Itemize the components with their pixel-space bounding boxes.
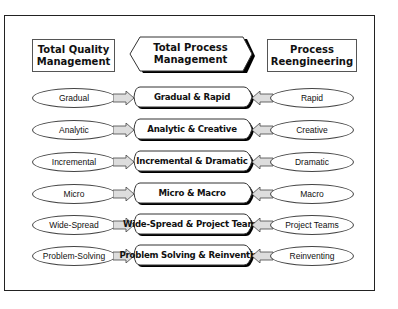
header-center-line2: Management	[154, 54, 228, 65]
tpm-shape: Wide-Spread & Project Teams	[132, 213, 256, 237]
pr-label: Rapid	[301, 93, 323, 103]
pr-oval: Creative	[270, 120, 354, 140]
pr-oval: Rapid	[270, 88, 354, 108]
tqm-label: Wide-Spread	[49, 220, 99, 230]
header-total-quality-management: Total QualityManagement	[32, 39, 115, 72]
tpm-shape: Micro & Macro	[132, 182, 256, 206]
pr-label: Macro	[300, 189, 324, 199]
header-total-process-management: Total ProcessManagement	[129, 36, 256, 74]
tpm-shape: Problem Solving & Reinventing	[132, 244, 256, 268]
header-right-line2: Reengineering	[271, 56, 353, 67]
tpm-shape: Incremental & Dramatic	[132, 150, 256, 174]
row-5: Problem-Solving Problem Solving & Reinve…	[0, 244, 398, 268]
header-right-line1: Process	[290, 44, 334, 55]
tqm-label: Analytic	[59, 125, 89, 135]
tpm-label: Wide-Spread & Project Teams	[132, 213, 252, 234]
tpm-label: Analytic & Creative	[132, 118, 252, 139]
tqm-label: Micro	[64, 189, 85, 199]
header-left-line1: Total Quality	[38, 44, 109, 55]
tqm-oval: Analytic	[32, 120, 116, 140]
tpm-shape: Analytic & Creative	[132, 118, 256, 142]
pr-label: Reinventing	[290, 251, 335, 261]
tqm-oval: Incremental	[32, 152, 116, 172]
header-process-reengineering: ProcessReengineering	[267, 39, 357, 72]
tpm-label: Micro & Macro	[132, 182, 252, 203]
row-0: Gradual Gradual & Rapid Rapid	[0, 86, 398, 110]
row-2: Incremental Incremental & Dramatic Drama…	[0, 150, 398, 174]
tqm-oval: Micro	[32, 184, 116, 204]
pr-oval: Dramatic	[270, 152, 354, 172]
pr-label: Creative	[296, 125, 328, 135]
tqm-label: Gradual	[59, 93, 89, 103]
tqm-label: Incremental	[52, 157, 96, 167]
header-left-line2: Management	[37, 56, 111, 67]
pr-oval: Macro	[270, 184, 354, 204]
tqm-oval: Wide-Spread	[32, 215, 116, 235]
tpm-label: Gradual & Rapid	[132, 86, 252, 107]
pr-oval: Reinventing	[270, 246, 354, 266]
tqm-label: Problem-Solving	[43, 251, 105, 261]
row-4: Wide-Spread Wide-Spread & Project Teams …	[0, 213, 398, 237]
tqm-oval: Problem-Solving	[32, 246, 116, 266]
row-3: Micro Micro & Macro Macro	[0, 182, 398, 206]
pr-oval: Project Teams	[270, 215, 354, 235]
header-center-line1: Total Process	[153, 42, 228, 53]
tqm-oval: Gradual	[32, 88, 116, 108]
tpm-label: Incremental & Dramatic	[132, 150, 252, 171]
pr-label: Dramatic	[295, 157, 329, 167]
pr-label: Project Teams	[285, 220, 339, 230]
row-1: Analytic Analytic & Creative Creative	[0, 118, 398, 142]
tpm-label: Problem Solving & Reinventing	[132, 244, 252, 265]
tpm-shape: Gradual & Rapid	[132, 86, 256, 110]
